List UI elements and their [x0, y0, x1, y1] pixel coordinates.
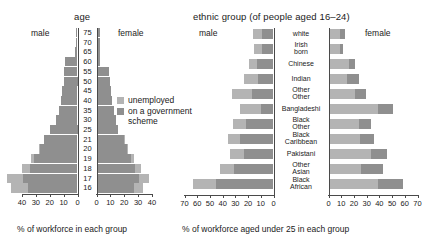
ethnic-right-tick: 50: [386, 199, 398, 208]
tick-mark: [50, 194, 51, 197]
legend-label-scheme-line2: scheme: [128, 116, 158, 126]
tick-mark: [124, 194, 125, 197]
tick-mark: [97, 194, 98, 197]
ethnic-right-tick: 30: [361, 199, 373, 208]
tick-mark: [274, 195, 275, 198]
tick-mark: [223, 195, 224, 198]
ethnic-right-tick: 20: [348, 199, 360, 208]
tick-mark: [354, 195, 355, 198]
tick-mark: [392, 195, 393, 198]
pyramid-right-tick: 0: [91, 198, 103, 207]
legend-swatch-scheme-icon: [117, 108, 124, 115]
tick-mark: [261, 195, 262, 198]
legend-label-unemployed: unemployed: [128, 95, 174, 105]
tick-mark: [418, 195, 419, 198]
ethnic-group-chart: ethnic group (of people aged 16–24) male…: [180, 0, 431, 247]
pyramid-right-tick-labels: 010203040: [0, 198, 180, 210]
tick-mark: [329, 195, 330, 198]
tick-mark: [22, 194, 23, 197]
tick-mark: [78, 194, 79, 197]
tick-mark: [405, 195, 406, 198]
ethnic-right-tick: 70: [412, 199, 424, 208]
pyramid-right-tick: 30: [132, 198, 144, 207]
tick-mark: [197, 195, 198, 198]
legend-swatch-unemployed-icon: [117, 97, 124, 104]
tick-mark: [379, 195, 380, 198]
tick-mark: [152, 194, 153, 197]
tick-mark: [210, 195, 211, 198]
tick-mark: [138, 194, 139, 197]
pyramid-right-tick: 40: [146, 198, 158, 207]
tick-mark: [110, 194, 111, 197]
ethnic-right-tick: 10: [335, 199, 347, 208]
pyramid-right-tick: 10: [104, 198, 116, 207]
age-pyramid-chart: age male female 757065605550454035302521…: [0, 0, 180, 247]
tick-mark: [64, 194, 65, 197]
pyramid-xlabel: % of workforce in each group: [17, 224, 127, 234]
tick-mark: [36, 194, 37, 197]
ethnic-right-tick-labels: 010203040506070: [180, 199, 431, 211]
tick-mark: [235, 195, 236, 198]
pyramid-right-tick: 20: [118, 198, 130, 207]
tick-mark: [248, 195, 249, 198]
ethnic-right-tick: 0: [323, 199, 335, 208]
tick-mark: [341, 195, 342, 198]
ethnic-right-tick: 40: [373, 199, 385, 208]
ethnic-xlabel: % of workforce aged under 25 in each gro…: [182, 224, 349, 234]
tick-mark: [367, 195, 368, 198]
ethnic-right-tick: 60: [399, 199, 411, 208]
tick-mark: [185, 195, 186, 198]
